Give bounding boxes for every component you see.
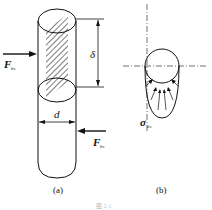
force-left-subscript: bs [11,66,16,71]
diameter-dimension: d [39,108,75,124]
force-arrow-left: F bs [3,51,37,71]
force-right-subscript: bs [100,144,105,149]
caption-a: (a) [53,185,63,195]
stress-distribution: σ bs [123,4,208,132]
stress-subscript: bs [147,124,152,129]
caption-b: (b) [156,185,167,195]
diameter-label: d [54,108,60,120]
height-label: δ [90,48,96,60]
figure-caption: 图 2-1 [96,203,112,210]
figure-canvas: δ d F bs F bs (a) [0,0,212,210]
pin-cylinder [38,8,76,178]
force-arrow-right: F bs [77,128,106,149]
height-dimension: δ [76,19,104,87]
stress-label: σ [140,116,147,128]
